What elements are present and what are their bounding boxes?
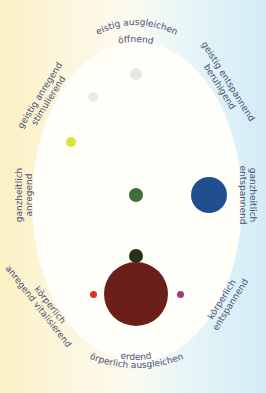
label-left-line1: ganzheitlich: [14, 168, 24, 223]
label-left-line2: anregend: [24, 174, 34, 217]
diagram-canvas: geistig ausgleichend öffnend geistig anr…: [0, 0, 266, 393]
label-lower-left-line2: anregend vitalisierend: [4, 263, 74, 349]
label-upper-right-line1: geistig entspannend: [200, 40, 257, 123]
label-top-line2: öffnend: [117, 34, 154, 46]
label-right-line1: ganzheitlich: [248, 168, 258, 223]
labels-layer: geistig ausgleichend öffnend geistig anr…: [0, 0, 266, 393]
label-right-line2: entspannend: [238, 165, 248, 224]
label-top-line1: geistig ausgleichend: [0, 0, 179, 37]
